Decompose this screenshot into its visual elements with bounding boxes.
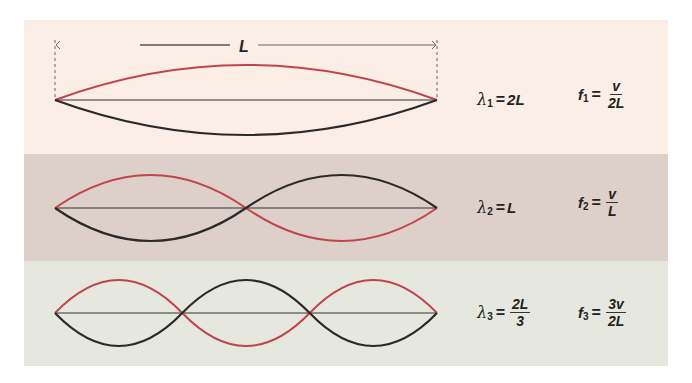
mode-1-frequency: f1= v2L xyxy=(578,79,626,110)
mode-3-wave xyxy=(55,280,437,346)
mode-3-wavelength: λ3= 2L3 xyxy=(477,297,530,328)
mode-1-wavelength: λ1=2L xyxy=(477,90,525,109)
mode-3-frequency: f3= 3v2L xyxy=(578,297,626,328)
fraction: 2L3 xyxy=(510,297,530,328)
fraction: 3v2L xyxy=(606,297,626,328)
mode-2-frequency: f2= vL xyxy=(578,187,618,218)
fraction: v2L xyxy=(606,79,626,110)
length-label: L xyxy=(239,38,249,55)
fraction: vL xyxy=(606,187,619,218)
mode-2-wavelength: λ2=L xyxy=(477,198,516,217)
mode-2-wave xyxy=(55,175,437,241)
mode-1-wave xyxy=(55,65,437,135)
